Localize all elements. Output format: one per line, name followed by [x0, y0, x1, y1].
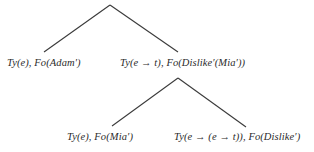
- root-right-branch-line: [110, 5, 178, 52]
- sub-right-branch-line: [178, 78, 246, 127]
- sub-left-branch-line: [112, 78, 178, 126]
- node-label-sub-right-daughter: Ty(e → (e → t)), Fo(Dislike′): [174, 131, 300, 142]
- tree-diagram-canvas: Ty(e), Fo(Adam′) Ty(e → t), Fo(Dislike′(…: [0, 0, 314, 152]
- root-left-branch-line: [44, 5, 110, 52]
- node-label-root-right-daughter: Ty(e → t), Fo(Dislike′(Mia′)): [120, 57, 245, 68]
- node-label-sub-left-daughter: Ty(e), Fo(Mia′): [67, 131, 133, 142]
- node-label-root-left-daughter: Ty(e), Fo(Adam′): [7, 57, 81, 68]
- tree-branches-group: [0, 0, 314, 152]
